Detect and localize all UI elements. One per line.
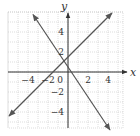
x-tick-label: 0 [57, 75, 63, 85]
x-tick-label: 4 [105, 75, 111, 85]
x-tick-label: 2 [85, 75, 91, 85]
x-tick-label: −4 [21, 75, 35, 85]
coordinate-plane: xy −4−202442−2−4 [0, 0, 140, 136]
y-tick-label: −2 [51, 87, 64, 97]
x-axis-label: x [130, 66, 137, 79]
y-tick-label: 4 [58, 27, 64, 37]
x-tick-label: −2 [41, 75, 54, 85]
y-axis-label: y [60, 0, 68, 13]
axes: xy [8, 0, 137, 128]
grid [8, 12, 123, 128]
y-tick-label: −4 [51, 107, 65, 117]
y-tick-label: 2 [58, 47, 64, 57]
